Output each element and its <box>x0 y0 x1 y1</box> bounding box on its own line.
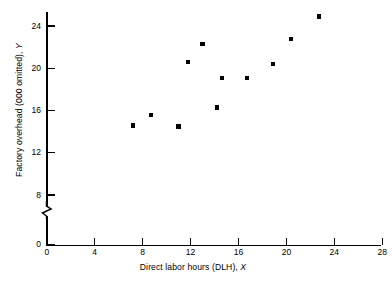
x-tick-label-12: 12 <box>176 248 206 257</box>
x-tick-28 <box>382 238 383 245</box>
y-tick-24 <box>48 25 55 26</box>
x-tick-label-20: 20 <box>271 248 301 257</box>
y-tick-20 <box>48 68 55 69</box>
y-axis-lower-stub <box>46 216 48 246</box>
y-axis-title: Factory overhead (000 omitted), Y <box>14 10 24 210</box>
data-point <box>131 123 135 127</box>
y-axis-title-text: Factory overhead (000 omitted), <box>14 51 24 176</box>
x-tick-label-8: 8 <box>128 248 158 257</box>
y-tick-12 <box>48 152 55 153</box>
x-tick-label-28: 28 <box>367 248 392 257</box>
x-tick-16 <box>238 238 239 245</box>
data-point <box>289 37 293 41</box>
x-tick-24 <box>334 238 335 245</box>
x-tick-8 <box>142 238 143 245</box>
x-axis-title-text: Direct labor hours (DLH), <box>140 262 238 272</box>
data-point <box>317 14 321 18</box>
y-axis-break-icon <box>40 201 56 219</box>
y-tick-0 <box>48 244 55 245</box>
x-tick-label-16: 16 <box>223 248 253 257</box>
data-point <box>176 124 180 128</box>
data-point <box>149 113 153 117</box>
data-point <box>220 76 224 80</box>
data-point <box>200 42 204 46</box>
x-tick-4 <box>94 238 95 245</box>
x-axis-title: Direct labor hours (DLH), X <box>0 262 386 272</box>
x-tick-12 <box>190 238 191 245</box>
y-axis-title-symbol: Y <box>14 43 24 49</box>
x-tick-label-24: 24 <box>319 248 349 257</box>
x-tick-label-0: 0 <box>32 248 62 257</box>
y-tick-8 <box>48 194 55 195</box>
x-axis-title-symbol: X <box>240 262 246 272</box>
data-point <box>186 60 190 64</box>
data-point <box>245 76 249 80</box>
x-tick-label-4: 4 <box>80 248 110 257</box>
x-axis-line <box>46 245 381 247</box>
data-point <box>215 105 219 109</box>
y-tick-16 <box>48 110 55 111</box>
data-point <box>271 62 275 66</box>
x-tick-20 <box>286 238 287 245</box>
